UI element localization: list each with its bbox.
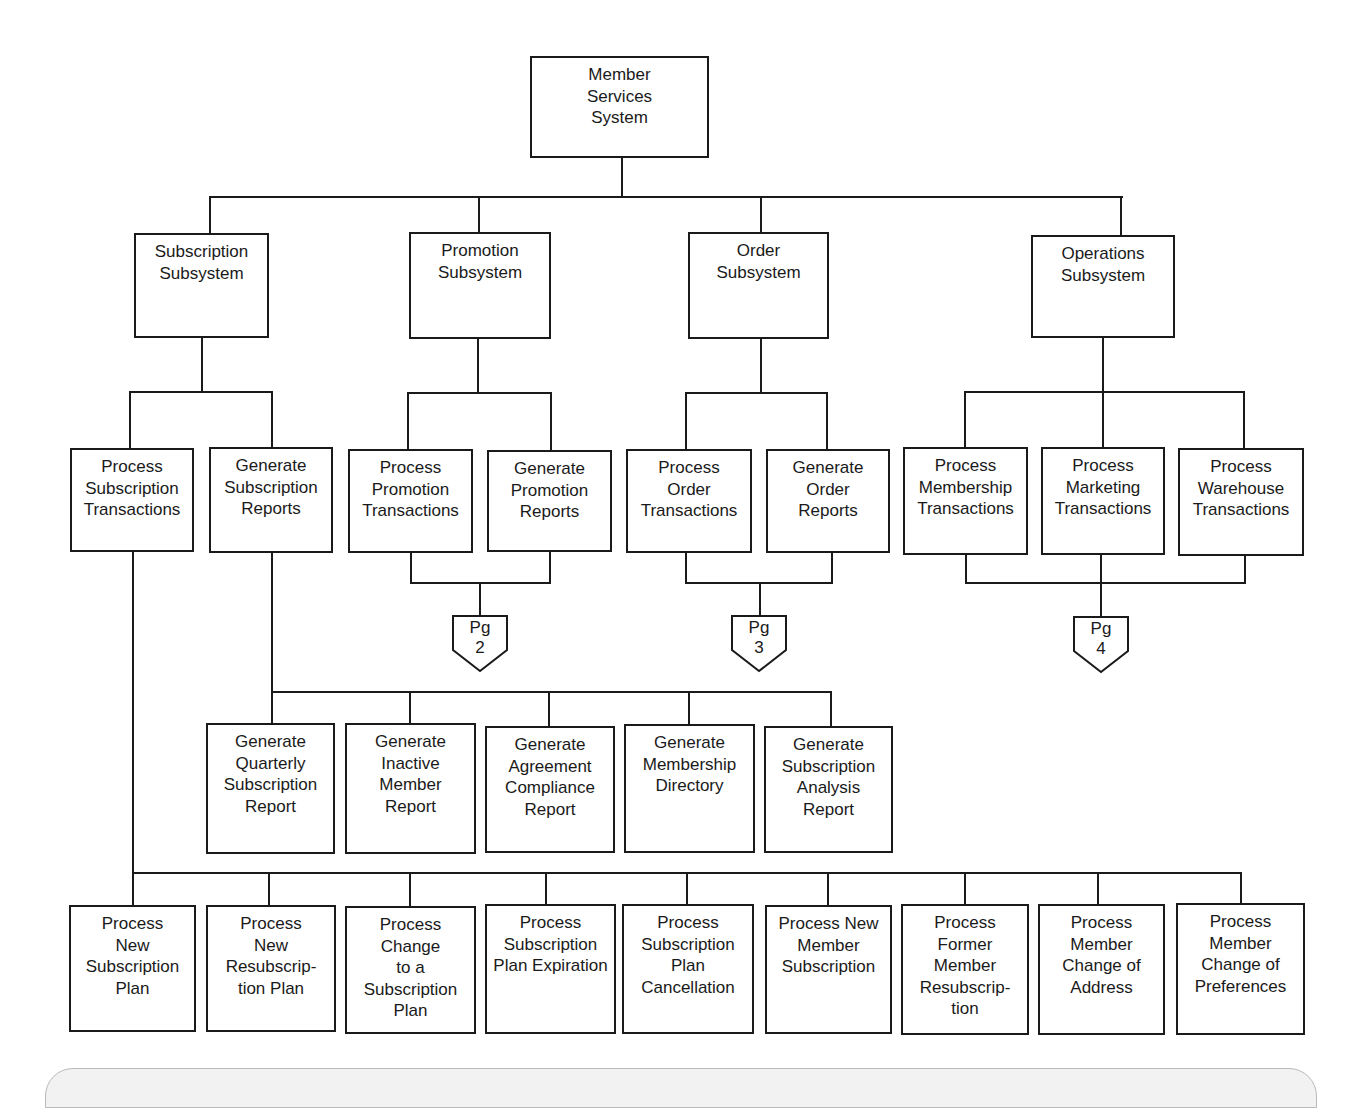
connector-line [410,551,412,584]
node-generate-order-reports[interactable]: Generate Order Reports [766,449,890,553]
connector-line [1102,391,1104,448]
connector-line [685,551,687,584]
node-promotion-subsystem[interactable]: Promotion Subsystem [409,232,551,339]
connector-line [545,872,547,906]
connector-line [477,337,479,393]
node-label: Process Order Transactions [628,457,750,522]
connector-line [271,691,832,693]
node-label: Generate Membership Directory [626,732,753,797]
connector-line [964,391,966,448]
connector-label: Pg 2 [452,618,508,658]
connector-line [1102,336,1104,393]
node-label: Order Subsystem [690,240,827,283]
node-label: Process New Subscription Plan [71,913,194,999]
connector-line [409,872,411,907]
node-process-membership-transactions[interactable]: Process Membership Transactions [903,447,1028,555]
node-label: Generate Order Reports [768,457,888,522]
node-label: Generate Inactive Member Report [347,731,474,817]
node-label: Process Subscription Plan Cancellation [624,912,752,998]
node-generate-promotion-reports[interactable]: Generate Promotion Reports [487,450,612,552]
node-process-subscription-transactions[interactable]: Process Subscription Transactions [70,448,194,552]
node-label: Generate Subscription Analysis Report [766,734,891,820]
node-process-marketing-transactions[interactable]: Process Marketing Transactions [1041,447,1165,555]
connector-line [685,392,828,394]
node-generate-quarterly-subscription-report[interactable]: Generate Quarterly Subscription Report [206,723,335,854]
node-process-warehouse-transactions[interactable]: Process Warehouse Transactions [1178,448,1304,556]
connector-line [549,551,551,584]
node-process-new-resubscription-plan[interactable]: Process New Resubscrip- tion Plan [206,905,336,1032]
connector-line [826,392,828,450]
connector-label: Pg 3 [731,618,787,658]
bottom-panel [45,1068,1317,1108]
node-label: Process Membership Transactions [905,455,1026,520]
node-label: Process Warehouse Transactions [1180,456,1302,521]
connector-line [548,691,550,727]
connector-line [760,337,762,393]
node-process-order-transactions[interactable]: Process Order Transactions [626,449,752,553]
connector-line [1100,553,1102,617]
node-label: Process Promotion Transactions [350,457,471,522]
connector-line [964,391,1245,393]
connector-line [1244,554,1246,584]
node-process-new-subscription-plan[interactable]: Process New Subscription Plan [69,905,196,1032]
connector-line [407,392,552,394]
connector-line [409,691,411,724]
connector-line [831,551,833,584]
node-order-subsystem[interactable]: Order Subsystem [688,232,829,339]
node-process-subscription-plan-cancellation[interactable]: Process Subscription Plan Cancellation [622,904,754,1034]
node-generate-subscription-reports[interactable]: Generate Subscription Reports [209,447,333,553]
connector-line [1120,196,1122,236]
node-member-services-system[interactable]: Member Services System [530,56,709,158]
node-process-former-member-resubscription[interactable]: Process Former Member Resubscrip- tion [901,904,1029,1035]
connector-line [759,582,761,616]
connector-line [271,551,273,725]
node-process-change-to-subscription-plan[interactable]: Process Change to a Subscription Plan [345,906,476,1034]
connector-line [965,553,967,584]
connector-line [407,392,409,450]
node-label: Process Former Member Resubscrip- tion [903,912,1027,1020]
node-label: Generate Subscription Reports [211,455,331,520]
node-process-promotion-transactions[interactable]: Process Promotion Transactions [348,449,473,553]
connector-line [129,391,273,393]
connector-line [201,336,203,392]
node-generate-agreement-compliance-report[interactable]: Generate Agreement Compliance Report [485,726,615,853]
connector-line [686,872,688,905]
node-process-new-member-subscription[interactable]: Process New Member Subscription [765,905,892,1034]
connector-line [271,391,273,448]
node-subscription-subsystem[interactable]: Subscription Subsystem [134,233,269,338]
node-process-member-change-of-address[interactable]: Process Member Change of Address [1038,904,1165,1035]
connector-line [129,391,131,449]
connector-label: Pg 4 [1073,619,1129,659]
connector-line [965,582,1246,584]
node-process-member-change-of-preferences[interactable]: Process Member Change of Preferences [1176,903,1305,1035]
node-label: Process Subscription Plan Expiration [487,912,614,977]
connector-line [478,196,480,232]
offpage-connector-pg2[interactable]: Pg 2 [452,615,508,673]
connector-line [209,196,1123,198]
node-label: Process New Resubscrip- tion Plan [208,913,334,999]
node-process-subscription-plan-expiration[interactable]: Process Subscription Plan Expiration [485,904,616,1034]
offpage-connector-pg3[interactable]: Pg 3 [731,615,787,673]
node-label: Process Marketing Transactions [1043,455,1163,520]
connector-line [688,691,690,725]
connector-line [685,392,687,450]
node-label: Generate Quarterly Subscription Report [208,731,333,817]
node-label: Process Member Change of Preferences [1178,911,1303,997]
node-operations-subsystem[interactable]: Operations Subsystem [1031,235,1175,338]
node-label: Generate Agreement Compliance Report [487,734,613,820]
connector-line [132,550,134,906]
node-label: Generate Promotion Reports [489,458,610,523]
node-generate-subscription-analysis-report[interactable]: Generate Subscription Analysis Report [764,726,893,853]
node-label: Process Change to a Subscription Plan [347,914,474,1022]
node-label: Promotion Subsystem [411,240,549,283]
offpage-connector-pg4[interactable]: Pg 4 [1073,616,1129,674]
connector-line [830,691,832,727]
node-generate-membership-directory[interactable]: Generate Membership Directory [624,724,755,853]
connector-line [964,872,966,905]
node-label: Member Services System [532,64,707,129]
connector-line [1240,872,1242,904]
connector-line [209,196,211,234]
node-generate-inactive-member-report[interactable]: Generate Inactive Member Report [345,723,476,854]
node-label: Process New Member Subscription [767,913,890,978]
